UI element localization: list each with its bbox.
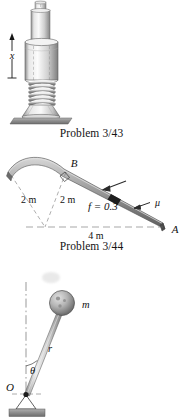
pendulum-rod [25,310,64,396]
label-pivot-o: O [6,381,14,393]
pendulum-mass [50,291,75,316]
label-angle-theta: θ [30,365,35,376]
figure-plunger: x [0,0,183,130]
plunger-base [22,105,60,120]
label-radius-right: 2 m [60,194,76,205]
label-point-a: A [171,223,179,235]
plunger-housing [25,38,58,83]
caption-problem-3-44: Problem 3/44 [0,240,183,252]
ground-plate [10,118,72,124]
caption-problem-3-43: Problem 3/43 [0,127,183,139]
figure-pendulum: m r θ O [0,262,183,420]
label-displacement-x: x [9,50,15,61]
velocity-arrow [103,181,126,191]
label-mu: μ [154,197,160,208]
label-radius-left: 2 m [21,194,37,205]
label-point-b: B [71,157,78,169]
label-rod-r: r [48,343,53,354]
mu-arrow [134,203,150,210]
label-mass-m: m [82,299,90,310]
radius-construction-lines [11,172,66,227]
label-friction-coefficient: f = 0.3 [88,200,118,212]
coil-spring [30,81,54,104]
figure-sheet: x Problem 3/43 [0,0,183,420]
dimension-x: x [8,33,17,78]
pivot-support [9,392,45,417]
